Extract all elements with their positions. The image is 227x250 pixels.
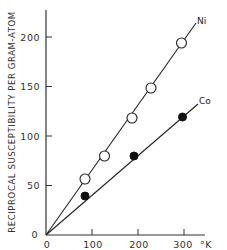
co-data-point xyxy=(81,192,89,200)
x-tick-label: 200 xyxy=(129,239,149,250)
y-ticks xyxy=(46,37,52,186)
x-unit-label: °K xyxy=(200,239,212,250)
y-tick-label: 200 xyxy=(20,32,40,43)
y-tick-label: 150 xyxy=(20,81,40,92)
ni-data-point xyxy=(100,151,110,161)
co-series-label: Co xyxy=(199,96,211,106)
x-tick-label: 0 xyxy=(44,239,51,250)
y-tick-label: 50 xyxy=(27,180,40,191)
ni-fit-line xyxy=(46,23,196,235)
ni-series-label: Ni xyxy=(197,16,206,26)
ni-data-point xyxy=(127,113,137,123)
ni-data-point xyxy=(80,174,90,184)
co-data-point xyxy=(179,113,187,121)
co-fit-line xyxy=(46,104,198,235)
y-tick-label: 0 xyxy=(31,229,38,240)
x-ticks xyxy=(92,229,184,235)
x-tick-label: 300 xyxy=(173,239,193,250)
chart: 0 50 100 150 200 0 100 200 300 °K RECIPR… xyxy=(0,0,227,250)
co-series-markers xyxy=(81,113,187,200)
y-tick-label: 100 xyxy=(20,131,40,142)
y-axis-title: RECIPROCAL SUSCEPTIBILITY PER GRAM-ATOM xyxy=(7,11,17,233)
ni-data-point xyxy=(146,83,156,93)
x-tick-label: 100 xyxy=(83,239,103,250)
co-data-point xyxy=(130,152,138,160)
ni-data-point xyxy=(177,38,187,48)
